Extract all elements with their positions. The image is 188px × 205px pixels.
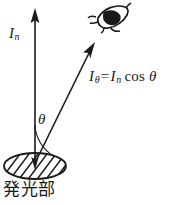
theta-angle-label: θ <box>38 112 45 127</box>
lighting-angle-diagram: In θ Iθ=Incosθ 発光部 <box>0 0 188 205</box>
formula-equals-sign: = <box>101 68 110 84</box>
normal-intensity-symbol: I <box>9 25 14 41</box>
formula-angle-symbol: θ <box>149 68 157 84</box>
formula-cos-function: cos <box>124 68 145 84</box>
intensity-formula-label: Iθ=Incosθ <box>89 69 157 85</box>
angled-intensity-arrow-head <box>83 42 95 59</box>
formula-lhs-subscript: θ <box>95 74 100 85</box>
diagram-canvas <box>0 0 188 205</box>
formula-rhs-symbol: I <box>111 68 116 84</box>
formula-rhs-subscript: n <box>116 74 121 85</box>
normal-intensity-subscript: n <box>15 31 20 42</box>
light-source-caption: 発光部 <box>3 181 56 198</box>
normal-intensity-label: In <box>9 26 20 42</box>
formula-lhs-symbol: I <box>89 68 94 84</box>
observer-eye-icon <box>88 3 131 33</box>
